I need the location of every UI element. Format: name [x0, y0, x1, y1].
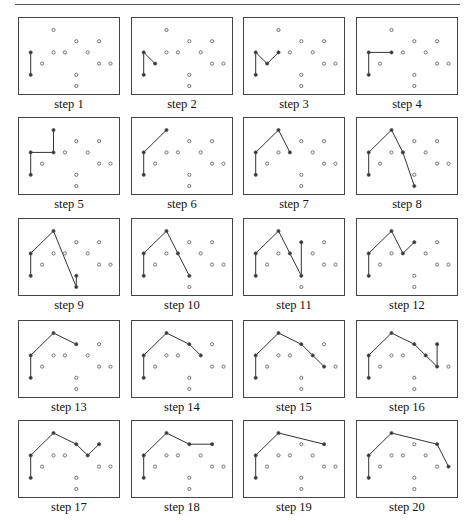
- point-marker: [367, 354, 370, 357]
- point-marker: [300, 241, 303, 244]
- point-marker: [288, 454, 291, 457]
- step-panel: [243, 218, 345, 296]
- point-marker: [323, 343, 326, 346]
- step-panel: [356, 420, 458, 498]
- point-marker: [413, 443, 416, 446]
- point-marker: [413, 73, 416, 76]
- point-marker: [165, 28, 168, 31]
- point-marker: [75, 173, 78, 176]
- point-marker: [254, 354, 257, 357]
- point-marker: [311, 354, 314, 357]
- point-marker: [109, 365, 112, 368]
- point-marker: [75, 241, 78, 244]
- point-marker: [211, 162, 214, 165]
- step-panel: [18, 117, 120, 195]
- point-marker: [52, 331, 55, 334]
- point-marker: [413, 285, 416, 288]
- point-marker: [323, 263, 326, 266]
- point-marker: [254, 51, 257, 54]
- point-marker: [222, 162, 225, 165]
- point-marker: [165, 454, 168, 457]
- step-panel: [356, 320, 458, 398]
- step-panel: [131, 218, 233, 296]
- point-marker: [222, 62, 225, 65]
- point-marker: [109, 62, 112, 65]
- point-marker: [311, 454, 314, 457]
- point-marker: [300, 184, 303, 187]
- point-marker: [154, 365, 157, 368]
- point-marker: [75, 487, 78, 490]
- point-marker: [154, 263, 157, 266]
- point-marker: [300, 274, 303, 277]
- point-marker: [266, 465, 269, 468]
- point-marker: [109, 162, 112, 165]
- point-marker: [277, 128, 280, 131]
- point-marker: [165, 331, 168, 334]
- point-marker: [211, 465, 214, 468]
- point-marker: [277, 229, 280, 232]
- point-marker: [277, 454, 280, 457]
- point-marker: [211, 263, 214, 266]
- step-panel: [131, 320, 233, 398]
- hull-path: [144, 130, 167, 175]
- point-marker: [52, 431, 55, 434]
- point-marker: [75, 376, 78, 379]
- point-marker: [98, 365, 101, 368]
- point-marker: [52, 229, 55, 232]
- point-marker: [41, 465, 44, 468]
- point-marker: [142, 51, 145, 54]
- point-marker: [222, 465, 225, 468]
- point-marker: [436, 465, 439, 468]
- step-label: step 5: [14, 197, 124, 212]
- point-marker: [211, 140, 214, 143]
- point-marker: [165, 229, 168, 232]
- step-plot: [357, 219, 457, 295]
- step-label: step 10: [127, 298, 237, 313]
- point-marker: [41, 62, 44, 65]
- point-marker: [75, 73, 78, 76]
- step-panel: [131, 17, 233, 95]
- point-marker: [109, 465, 112, 468]
- point-marker: [75, 343, 78, 346]
- point-marker: [63, 51, 66, 54]
- point-marker: [165, 128, 168, 131]
- point-marker: [413, 376, 416, 379]
- point-marker: [199, 354, 202, 357]
- point-marker: [323, 62, 326, 65]
- step-label: step 7: [239, 197, 349, 212]
- point-marker: [254, 476, 257, 479]
- point-marker: [424, 252, 427, 255]
- point-marker: [413, 184, 416, 187]
- point-marker: [142, 151, 145, 154]
- point-marker: [367, 252, 370, 255]
- point-marker: [300, 173, 303, 176]
- step-plot: [244, 118, 344, 194]
- point-marker: [29, 476, 32, 479]
- point-marker: [254, 252, 257, 255]
- point-marker: [188, 173, 191, 176]
- step-plot: [132, 118, 232, 194]
- point-marker: [424, 151, 427, 154]
- point-marker: [323, 241, 326, 244]
- step-label: step 11: [239, 298, 349, 313]
- point-marker: [211, 365, 214, 368]
- point-marker: [413, 241, 416, 244]
- point-marker: [436, 443, 439, 446]
- point-marker: [52, 354, 55, 357]
- point-marker: [401, 252, 404, 255]
- step-plot: [132, 219, 232, 295]
- point-marker: [288, 354, 291, 357]
- point-marker: [142, 354, 145, 357]
- point-marker: [424, 454, 427, 457]
- hull-path: [31, 231, 77, 287]
- point-marker: [52, 128, 55, 131]
- point-marker: [323, 443, 326, 446]
- point-marker: [311, 51, 314, 54]
- step-label: step 18: [127, 500, 237, 515]
- point-marker: [211, 40, 214, 43]
- point-marker: [379, 465, 382, 468]
- point-marker: [199, 252, 202, 255]
- step-label: step 4: [352, 97, 462, 112]
- step-panel: [243, 320, 345, 398]
- point-marker: [436, 62, 439, 65]
